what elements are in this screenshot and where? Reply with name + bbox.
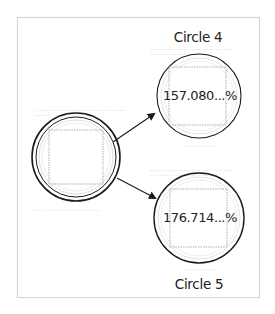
- circle-4-value: 157.080...%: [155, 88, 245, 103]
- svg-text:~~~~ ~~~ ~~: ~~~~ ~~~ ~~: [182, 267, 215, 272]
- circle-diagram: ~ ~~~~ ~~~ ~~~~~ ~~ ~~~~~~ ~~~~ ~~~ ~~ ~…: [0, 0, 275, 314]
- arrow-to-circle-5: [117, 178, 155, 198]
- circle-4-title: Circle 4: [148, 29, 248, 45]
- svg-text:~ ~~ ~ ~~~~ ~~ ~~ ~~~ ~~~: ~ ~~ ~ ~~~~ ~~ ~~ ~~~ ~~~: [30, 208, 99, 213]
- arrow-to-circle-4: [113, 114, 154, 142]
- svg-text:~~~~ ~~~ ~~: ~~~~ ~~~ ~~: [185, 144, 218, 149]
- source-circle: ~ ~~~~ ~~~ ~~~~~ ~~ ~~~~~~ ~~~~ ~~~ ~~ ~…: [30, 108, 125, 213]
- circle-5-title: Circle 5: [149, 276, 249, 292]
- circle-5-value: 176.714...%: [155, 210, 245, 225]
